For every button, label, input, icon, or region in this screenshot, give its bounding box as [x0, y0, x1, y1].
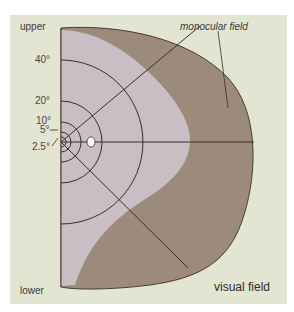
upper-label: upper [20, 21, 46, 32]
eccentricity-20-label: 20° [35, 95, 50, 106]
lower-label: lower [20, 285, 44, 296]
eccentricity-5-label: 5° [40, 124, 50, 135]
visual-field-label: visual field [214, 280, 270, 294]
monocular-field-label: monocular field [180, 21, 248, 32]
blind-spot [87, 137, 95, 147]
eccentricity-2-5-label: 2.5° [32, 141, 50, 152]
eccentricity-40-label: 40° [35, 54, 50, 65]
visual-field-diagram [0, 0, 294, 312]
